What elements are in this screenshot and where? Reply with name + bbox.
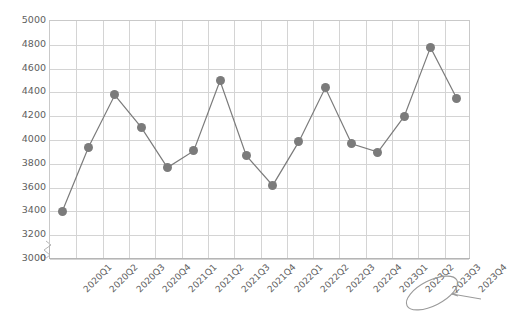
data-point (452, 94, 461, 103)
data-point (426, 43, 435, 52)
data-point (294, 137, 303, 146)
data-point (58, 207, 67, 216)
data-point (400, 112, 409, 121)
data-point (189, 146, 198, 155)
data-point (163, 163, 172, 172)
data-point (373, 148, 382, 157)
data-point (216, 76, 225, 85)
data-point (84, 143, 93, 152)
data-point (268, 181, 277, 190)
data-point (321, 83, 330, 92)
data-point (347, 139, 356, 148)
data-point (110, 90, 119, 99)
data-point (242, 151, 251, 160)
data-point (137, 123, 146, 132)
